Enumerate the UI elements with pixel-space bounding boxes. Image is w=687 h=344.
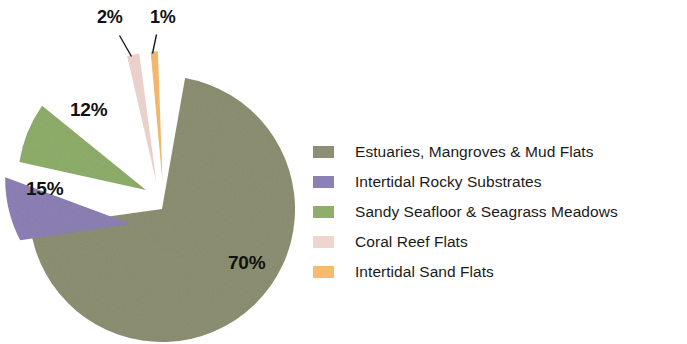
callout-leader-line-1-percent <box>153 35 157 54</box>
pie-data-label-12-percent: 12% <box>70 99 107 121</box>
pie-slice-coral-reef-flats <box>127 53 156 183</box>
legend-swatch-icon <box>313 266 334 278</box>
pie-chart-figure: 70% 15% 12% 2% 1% Estuaries, Mangroves &… <box>0 0 687 344</box>
chart-legend: Estuaries, Mangroves & Mud Flats Interti… <box>313 137 687 287</box>
legend-swatch-icon <box>313 176 334 188</box>
legend-item-intertidal-rocky-substrates: Intertidal Rocky Substrates <box>313 167 687 197</box>
pie-data-label-15-percent: 15% <box>26 178 63 200</box>
legend-swatch-icon <box>313 236 334 248</box>
legend-item-label: Coral Reef Flats <box>355 233 468 251</box>
legend-item-label: Estuaries, Mangroves & Mud Flats <box>355 143 594 161</box>
legend-item-coral-reef-flats: Coral Reef Flats <box>313 227 687 257</box>
legend-swatch-icon <box>313 206 334 218</box>
pie-data-label-70-percent: 70% <box>228 252 265 274</box>
legend-item-label: Sandy Seafloor & Seagrass Meadows <box>355 203 618 221</box>
pie-data-label-1-percent: 1% <box>150 7 176 28</box>
pie-chart-plot: 70% 15% 12% 2% 1% <box>0 0 310 344</box>
legend-item-intertidal-sand-flats: Intertidal Sand Flats <box>313 257 687 287</box>
callout-leader-line-2-percent <box>120 36 132 57</box>
legend-item-sandy-seafloor-seagrass-meadows: Sandy Seafloor & Seagrass Meadows <box>313 197 687 227</box>
legend-item-estuaries-mangroves-mud-flats: Estuaries, Mangroves & Mud Flats <box>313 137 687 167</box>
legend-item-label: Intertidal Sand Flats <box>355 263 494 281</box>
pie-data-label-2-percent: 2% <box>97 7 123 28</box>
legend-item-label: Intertidal Rocky Substrates <box>355 173 542 191</box>
legend-swatch-icon <box>313 146 334 158</box>
pie-slices-group <box>0 0 310 344</box>
